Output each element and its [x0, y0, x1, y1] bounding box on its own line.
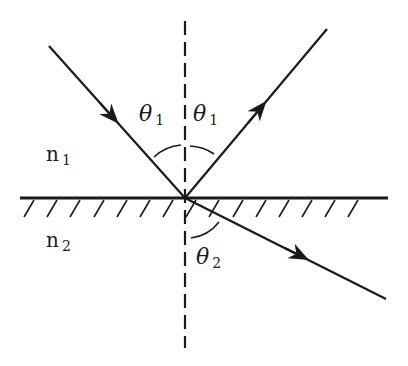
- reflected-arrow-icon: [248, 109, 260, 123]
- incident-ray: [49, 46, 185, 198]
- angle-arc-refracted: [191, 222, 219, 238]
- incident-arrow-icon: [100, 103, 112, 116]
- medium-n2-label: n2: [46, 228, 71, 254]
- theta1-incident-label: θ1: [139, 101, 164, 128]
- theta1-reflected-label: θ1: [193, 101, 218, 128]
- refraction-diagram: [0, 0, 408, 366]
- interface-hatching: [24, 200, 358, 217]
- angle-arc-reflected: [190, 146, 214, 154]
- refracted-arrow-icon: [285, 248, 300, 256]
- medium-n1-label: n1: [46, 142, 71, 168]
- angle-arc-incident: [154, 145, 181, 157]
- theta2-refracted-label: θ2: [196, 244, 221, 271]
